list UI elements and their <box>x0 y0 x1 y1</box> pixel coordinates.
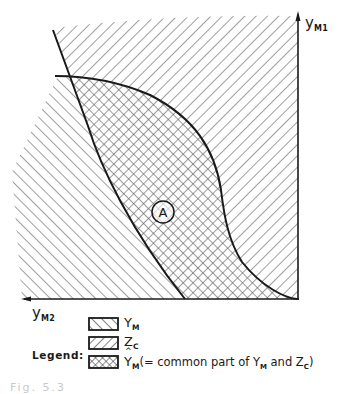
x-axis-label-symbol: y <box>32 304 41 322</box>
legend-desc-suffix: ) <box>309 355 314 369</box>
legend-label-ym-hat: YM(= common part of YM and ZC) <box>124 355 313 371</box>
region-a-label: A <box>159 205 168 220</box>
x-axis-label-subscript: M2 <box>41 314 56 323</box>
legend-swatch-ym-hat <box>89 356 118 368</box>
legend-symbol-hat: Y <box>124 355 132 368</box>
legend-swatch-zc <box>89 337 118 349</box>
y-axis-label-subscript: M1 <box>314 24 329 33</box>
x-axis-label: yM2 <box>32 306 55 323</box>
legend-symbol: Y <box>124 315 132 330</box>
y-axis-label-symbol: y <box>305 14 314 32</box>
legend-desc-sub1: M <box>260 363 267 371</box>
legend-label-ym: YM <box>124 316 139 332</box>
legend-swatch-ym <box>89 318 118 330</box>
legend-description: (= common part of YM and ZC) <box>139 355 313 369</box>
legend-subscript: C <box>133 342 139 351</box>
figure-caption: Fig. 5.3 <box>10 381 66 394</box>
legend-subscript: M <box>132 323 139 332</box>
legend-desc-mid: and Z <box>267 355 304 369</box>
legend-title: Legend: <box>32 349 84 361</box>
legend-desc-prefix: (= common part of Y <box>139 355 260 369</box>
y-axis-label: yM1 <box>305 16 328 33</box>
